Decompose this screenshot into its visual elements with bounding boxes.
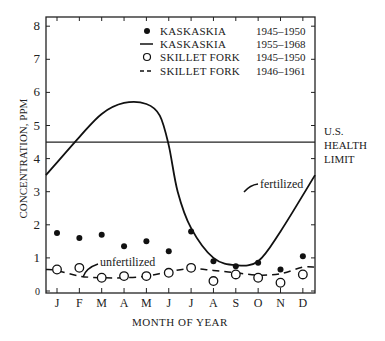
kaskaskia-1945-1950-point bbox=[278, 266, 284, 272]
health-limit-label: LIMIT bbox=[324, 153, 355, 165]
x-tick-label: N bbox=[276, 296, 285, 310]
legend-label: SKILLET FORK bbox=[160, 51, 240, 63]
health-limit-label: U.S. bbox=[324, 125, 344, 137]
x-axis-label: MONTH OF YEAR bbox=[132, 316, 228, 328]
x-tick-label: A bbox=[120, 296, 129, 310]
x-tick-label: D bbox=[299, 296, 308, 310]
kaskaskia-1945-1950-point bbox=[188, 228, 194, 234]
legend-label: SKILLET FORK bbox=[160, 65, 240, 77]
legend-label: KASKASKIA bbox=[160, 38, 226, 50]
legend-label: KASKASKIA bbox=[160, 25, 226, 37]
legend-period: 1945–1950 bbox=[256, 51, 306, 63]
x-tick-label: F bbox=[76, 296, 83, 310]
kaskaskia-1945-1950-point bbox=[210, 258, 216, 264]
y-tick-label: 7 bbox=[34, 51, 41, 66]
legend-period: 1955–1968 bbox=[256, 38, 306, 50]
x-tick-label: A bbox=[209, 296, 218, 310]
kaskaskia-1945-1950-point bbox=[76, 235, 82, 241]
y-tick-label: 8 bbox=[34, 18, 41, 33]
skillet-fork-1945-1950-point bbox=[209, 277, 218, 286]
fertilized-pointer bbox=[244, 184, 258, 192]
skillet-fork-1945-1950-point bbox=[187, 264, 196, 273]
skillet-fork-1945-1950-point bbox=[75, 264, 84, 273]
y-tick-label: 0 bbox=[35, 286, 40, 297]
skillet-fork-1945-1950-point bbox=[142, 272, 151, 281]
kaskaskia-1945-1950-point bbox=[143, 238, 149, 244]
skillet-fork-1945-1950-point bbox=[232, 270, 241, 279]
x-tick-label: J bbox=[189, 296, 194, 310]
skillet-fork-1945-1950-point bbox=[276, 278, 285, 287]
x-tick-label: O bbox=[254, 296, 263, 310]
x-tick-label: M bbox=[141, 296, 152, 310]
health-limit-label: HEALTH bbox=[324, 139, 367, 151]
legend-period: 1946–1961 bbox=[256, 65, 306, 77]
skillet-fork-1945-1950-point bbox=[120, 272, 129, 281]
kaskaskia-1945-1950-point bbox=[121, 243, 127, 249]
y-tick-label: 1 bbox=[34, 250, 41, 265]
skillet-fork-1945-1950-point bbox=[53, 265, 62, 274]
kaskaskia-1945-1950-point bbox=[255, 260, 261, 266]
y-axis-label: CONCENTRATION, PPM bbox=[17, 98, 29, 218]
x-tick-label: J bbox=[55, 296, 60, 310]
x-tick-label: S bbox=[232, 296, 239, 310]
kaskaskia-1945-1950-point bbox=[300, 253, 306, 259]
kaskaskia-1945-1950-point bbox=[99, 232, 105, 238]
nitrate-concentration-chart: 012345678JFMAMJJASONDMONTH OF YEARCONCEN… bbox=[0, 0, 385, 341]
legend-filled-dot-icon bbox=[144, 28, 150, 34]
y-tick-label: 6 bbox=[34, 84, 41, 99]
fertilized-label: fertilized bbox=[260, 177, 303, 191]
unfertilized-label: unfertilized bbox=[100, 255, 155, 269]
skillet-fork-1945-1950-point bbox=[254, 273, 263, 282]
kaskaskia-1945-1950-point bbox=[233, 263, 239, 269]
skillet-fork-1945-1950-point bbox=[97, 273, 106, 282]
skillet-fork-1945-1950-point bbox=[164, 268, 173, 277]
legend-open-circle-icon bbox=[144, 54, 151, 61]
x-tick-label: M bbox=[96, 296, 107, 310]
x-tick-label: J bbox=[166, 296, 171, 310]
legend-period: 1945–1950 bbox=[256, 25, 306, 37]
kaskaskia-1945-1950-point bbox=[166, 248, 172, 254]
y-tick-label: 4 bbox=[34, 151, 41, 166]
y-tick-label: 5 bbox=[34, 118, 41, 133]
unfertilized-pointer bbox=[83, 264, 98, 277]
y-tick-label: 3 bbox=[34, 184, 41, 199]
y-tick-label: 2 bbox=[34, 217, 41, 232]
skillet-fork-1945-1950-point bbox=[299, 270, 308, 279]
kaskaskia-1945-1950-point bbox=[54, 230, 60, 236]
